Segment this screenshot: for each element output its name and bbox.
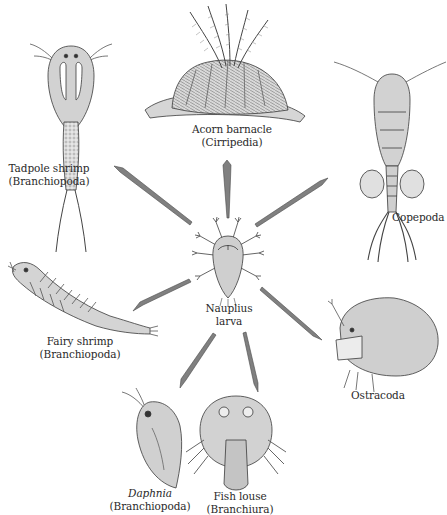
diagram-artwork [0,0,447,515]
label-nauplius-larva: Nauplius larva [200,302,258,328]
label-ostracoda: Ostracoda [348,389,408,402]
fairy-shrimp-group: (Branchiopoda) [30,348,130,361]
daphnia-group: (Branchiopoda) [100,500,200,513]
daphnia-common-name: Daphnia [128,487,172,499]
nauplius-line2: larva [200,315,258,328]
arrow-to-daphnia [180,333,216,388]
fish-louse-common-name: Fish louse [190,490,290,503]
daphnia-common-name-wrap: Daphnia [100,487,200,500]
acorn-barnacle-common-name: Acorn barnacle [182,123,282,136]
arrow-to-tadpole-shrimp [114,166,192,225]
nauplius-diagram: Acorn barnacle (Cirripedia) Tadpole shri… [0,0,447,515]
arrow-to-acorn-barnacle [223,160,231,218]
label-tadpole-shrimp: Tadpole shrimp (Branchiopoda) [0,162,98,188]
label-daphnia: Daphnia (Branchiopoda) [100,487,200,513]
arrow-to-fish-louse [243,332,258,392]
label-copepoda: Copepoda [392,211,447,224]
tadpole-shrimp-common-name: Tadpole shrimp [0,162,98,175]
copepoda-illustration [334,62,446,262]
tadpole-shrimp-illustration [30,44,112,252]
label-fish-louse: Fish louse (Branchiura) [190,490,290,515]
ostracoda-common-name: Ostracoda [348,389,408,402]
nauplius-larva-illustration [192,217,264,307]
acorn-barnacle-group: (Cirripedia) [182,136,282,149]
copepoda-common-name: Copepoda [392,211,447,224]
acorn-barnacle-illustration [145,4,305,122]
label-fairy-shrimp: Fairy shrimp (Branchiopoda) [30,335,130,361]
label-acorn-barnacle: Acorn barnacle (Cirripedia) [182,123,282,149]
fish-louse-group: (Branchiura) [190,503,290,515]
arrow-to-ostracoda [260,287,322,340]
fairy-shrimp-illustration [8,262,158,336]
nauplius-line1: Nauplius [200,302,258,315]
ostracoda-illustration [328,298,438,392]
arrow-to-copepoda [255,178,328,227]
fish-louse-illustration [186,396,286,490]
tadpole-shrimp-group: (Branchiopoda) [0,175,98,188]
daphnia-illustration [122,388,182,488]
fairy-shrimp-common-name: Fairy shrimp [30,335,130,348]
arrow-to-fairy-shrimp [133,279,191,311]
